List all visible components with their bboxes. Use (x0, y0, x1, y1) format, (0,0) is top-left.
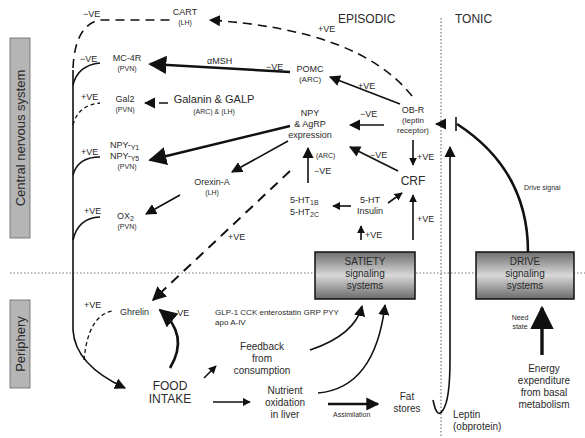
svg-text:consumption: consumption (234, 365, 291, 376)
svg-text:& AgRP: & AgRP (294, 119, 326, 129)
nutrient-to-satiety-arrow (318, 305, 385, 393)
svg-text:expression: expression (288, 130, 332, 140)
tonic-heading: TONIC (455, 12, 492, 26)
svg-text:signaling: signaling (345, 268, 384, 279)
svg-text:5-HT2C: 5-HT2C (290, 207, 319, 218)
ghrelin-branch (84, 311, 112, 360)
svg-text:metabolism: metabolism (518, 399, 569, 410)
periphery-section-label: Periphery (10, 300, 30, 388)
svg-text:Nutrient: Nutrient (267, 385, 302, 396)
orexin-to-ox2-arrow (146, 195, 180, 214)
svg-text:signaling: signaling (505, 268, 544, 279)
ox2-effect-label: +VE (84, 206, 101, 216)
svg-text:Leptin: Leptin (453, 409, 480, 420)
food-to-feedback-arrow (204, 366, 216, 378)
node-food-intake: FOOD INTAKE (149, 379, 191, 406)
svg-text:Galanin & GALP: Galanin & GALP (174, 93, 255, 105)
npy-to-npy-y-arrow (150, 126, 290, 160)
svg-text:5-HT: 5-HT (360, 195, 381, 205)
crf-npy-label: −VE (370, 150, 387, 160)
gut-peptides-label: GLP-1 CCK enterostatin GRP PYY apo A-IV (215, 308, 340, 327)
food-intake-to-ghrelin-arrow (160, 310, 178, 368)
svg-text:(PVN): (PVN) (117, 223, 136, 231)
mc4r-effect-label: −VE (80, 54, 97, 64)
node-nutrient-oxidation: Nutrient oxidation in liver (265, 385, 305, 420)
pomc-mc4r-effect-label: −VE (266, 62, 283, 72)
satiety-5ht-label: +VE (365, 230, 382, 240)
svg-text:OB-R: OB-R (402, 105, 425, 115)
episodic-heading: EPISODIC (338, 12, 396, 26)
drive-signal-curve (457, 124, 528, 252)
svg-text:from basal: from basal (521, 387, 568, 398)
node-galanin-galp: Galanin & GALP (ARC) & (LH) (174, 93, 255, 116)
svg-text:state: state (512, 323, 527, 330)
obr-pomc-label: +VE (358, 81, 375, 91)
svg-text:INTAKE: INTAKE (149, 392, 191, 406)
gal2-effect-label: +VE (81, 92, 98, 102)
node-ob-r: OB-R (leptin receptor) (397, 105, 429, 135)
svg-text:(PVN): (PVN) (117, 65, 136, 73)
svg-text:CART: CART (173, 7, 198, 17)
svg-text:Central nervous system: Central nervous system (13, 70, 28, 207)
node-fat-stores: Fat stores (393, 391, 420, 414)
svg-text:systems: systems (347, 280, 384, 291)
svg-text:(LH): (LH) (178, 19, 192, 27)
cns-section-label: Central nervous system (10, 38, 30, 238)
svg-text:apo A-IV: apo A-IV (215, 318, 246, 327)
svg-text:Fat: Fat (400, 391, 415, 402)
svg-text:NPY: NPY (301, 108, 320, 118)
npy-y-branch (73, 157, 100, 175)
svg-text:POMC: POMC (297, 64, 325, 74)
svg-text:OX2: OX2 (117, 211, 134, 222)
node-ox2: OX2 (PVN) (117, 211, 137, 231)
obr-to-cart-arrow (210, 20, 412, 96)
svg-text:(ARC) & (LH): (ARC) & (LH) (193, 108, 235, 116)
node-energy-expenditure: Energy expenditure from basal metabolism (518, 363, 571, 410)
svg-text:Gal2: Gal2 (115, 94, 134, 104)
node-orexin-a: Orexin-A (LH) (194, 177, 230, 197)
svg-text:(ARC): (ARC) (299, 75, 322, 84)
amsh-label: αMSH (207, 56, 232, 66)
gal2-branch (73, 103, 100, 125)
svg-text:Orexin-A: Orexin-A (194, 177, 230, 187)
mc4r-branch (73, 63, 100, 85)
node-mc4r: MC-4R (PVN) (113, 53, 142, 73)
svg-text:(leptin: (leptin (402, 116, 424, 125)
node-pomc: POMC (ARC) (297, 64, 325, 84)
svg-text:systems: systems (507, 280, 544, 291)
svg-text:oxidation: oxidation (265, 397, 305, 408)
svg-text:receptor): receptor) (397, 126, 429, 135)
assimilation-label: Assimilation (333, 411, 370, 418)
5ht-npy-label: −VE (314, 166, 331, 176)
need-state-label: Need state (512, 314, 529, 330)
svg-text:(PVN): (PVN) (115, 106, 134, 114)
satiety-signaling-box: SATIETY signaling systems (315, 252, 415, 299)
ghrelin-effect-label: +VE (84, 300, 101, 310)
satiety-crf-label: +VE (417, 214, 434, 224)
drive-signaling-box: DRIVE signaling systems (476, 252, 574, 299)
svg-text:NPY-Y1: NPY-Y1 (110, 140, 139, 151)
svg-text:FOOD: FOOD (153, 379, 188, 393)
svg-text:GLP-1 CCK enterostatin GRP PYY: GLP-1 CCK enterostatin GRP PYY (215, 308, 340, 317)
appetite-regulation-diagram: Central nervous system Periphery EPISODI… (0, 0, 585, 438)
svg-text:expenditure: expenditure (518, 375, 571, 386)
svg-text:5-HT1B: 5-HT1B (290, 195, 319, 206)
node-cart: CART (LH) (173, 7, 198, 27)
npy-to-orexin-arrow (232, 141, 288, 172)
svg-text:Periphery: Periphery (13, 316, 28, 372)
node-npy-agrp: NPY & AgRP expression (ARC) (288, 108, 335, 160)
svg-text:Need: Need (512, 314, 529, 321)
node-5ht-receptors: 5-HT1B 5-HT2C (290, 195, 319, 218)
svg-text:in liver: in liver (271, 409, 301, 420)
drive-signal-label: Drive signal (524, 184, 561, 192)
svg-text:Energy: Energy (528, 363, 560, 374)
node-leptin: Leptin (obprotein) (453, 409, 501, 432)
cart-effect-label: −VE (83, 9, 100, 19)
food-ghrelin-label: −VE (172, 308, 189, 318)
5ht-insulin-to-crf-arrow (388, 193, 402, 203)
node-feedback-from-consumption: Feedback from consumption (234, 341, 291, 376)
svg-text:(ARC): (ARC) (316, 152, 335, 160)
node-gal2: Gal2 (PVN) (115, 94, 134, 114)
node-5ht-insulin: 5-HT Insulin (357, 195, 383, 216)
svg-text:from: from (252, 353, 272, 364)
